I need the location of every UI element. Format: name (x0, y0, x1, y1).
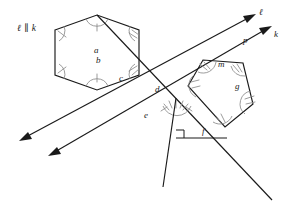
point-p-label: p (243, 36, 248, 45)
parallel-statement-label: ℓ ∥ k (17, 24, 36, 34)
figure-canvas (0, 0, 283, 205)
angle-f-label: f (202, 127, 205, 136)
right-angle-marker (176, 130, 184, 138)
ray-l-arrowhead-down (19, 132, 32, 141)
angle-e-label: e (144, 111, 148, 120)
angle-g-label: g (235, 82, 240, 91)
ray-k (48, 26, 272, 156)
ray-k-arrowhead-down (48, 147, 61, 156)
angle-b-label: b (96, 56, 101, 65)
ray-l-arrowhead-up (243, 14, 256, 23)
angle-m-label: m (218, 60, 225, 69)
ray-l-label: ℓ (259, 8, 263, 17)
ray-k-label: k (274, 30, 278, 39)
pentagon-shape (188, 60, 253, 127)
angle-a-label: a (94, 46, 99, 55)
angle-c-label: c (119, 74, 123, 83)
ray-k-arrowhead-up (259, 26, 272, 35)
geometry-figure: ℓ ∥ k ℓ k a b c d e f g m p (0, 0, 283, 205)
angle-marks-at-d (161, 100, 192, 116)
angle-d-label: d (155, 85, 160, 94)
